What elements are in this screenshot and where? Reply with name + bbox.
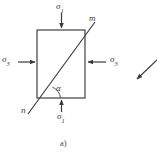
sigma-subscript: 3 [6,60,9,67]
sigma-subscript: 1 [60,7,63,14]
angle-label-alpha: α [56,84,61,93]
sigma-subscript: 1 [61,117,64,124]
sigma3-left-label: σ3 [2,55,10,64]
sigma-subscript: 3 [114,60,117,67]
rectangular-stress-element [37,30,85,98]
figure-caption: a) [60,139,67,148]
plane-label-m: m [89,14,96,23]
sigma1-top-label: σ1 [56,2,64,11]
figure-drawing-canvas [0,0,157,157]
stress-element-figure: σ1 σ1 σ3 σ3 m n α a) [0,0,157,157]
sigma3-right-label: σ3 [110,55,118,64]
plane-label-n: n [21,106,26,115]
adjacent-figure-arrow [137,60,157,79]
sigma1-bottom-label: σ1 [57,112,65,121]
